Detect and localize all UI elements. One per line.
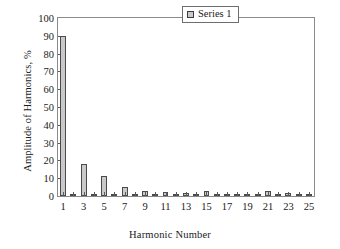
x-axis-tick-mark — [268, 192, 269, 196]
y-axis-tick-label: 40 — [24, 119, 54, 130]
plot-inner: 0102030405060708090100135791113151719212… — [58, 18, 314, 196]
y-axis-tick-label: 90 — [24, 30, 54, 41]
x-axis-tick-label: 17 — [222, 201, 233, 212]
x-axis-tick-mark — [237, 192, 238, 196]
y-axis-tick-label: 0 — [24, 191, 54, 202]
x-axis-tick-label: 11 — [160, 201, 170, 212]
y-axis-tick-label: 100 — [24, 13, 54, 24]
x-axis-tick-mark — [94, 192, 95, 196]
y-axis-tick-label: 10 — [24, 173, 54, 184]
x-axis-tick-label: 19 — [242, 201, 253, 212]
x-axis-tick-label: 9 — [142, 201, 147, 212]
bar — [60, 36, 66, 196]
y-axis-tick-label: 70 — [24, 66, 54, 77]
x-axis-tick-label: 21 — [263, 201, 274, 212]
x-axis-tick-mark — [145, 192, 146, 196]
legend-swatch-icon — [187, 11, 194, 18]
y-axis-tick-label: 60 — [24, 84, 54, 95]
x-axis-tick-mark — [288, 192, 289, 196]
x-axis-tick-mark — [104, 192, 105, 196]
x-axis-tick-mark — [166, 192, 167, 196]
x-axis-tick-mark — [258, 192, 259, 196]
x-axis-tick-mark — [309, 192, 310, 196]
x-axis-tick-mark — [206, 192, 207, 196]
x-axis-tick-label: 5 — [101, 201, 106, 212]
x-axis-tick-label: 3 — [81, 201, 86, 212]
x-axis-tick-label: 13 — [181, 201, 192, 212]
x-axis-tick-label: 1 — [60, 201, 65, 212]
chart-figure: Amplitude of Harmonics, % 01020304050607… — [0, 0, 340, 249]
x-axis-tick-mark — [114, 192, 115, 196]
x-axis-tick-mark — [278, 192, 279, 196]
x-axis-tick-mark — [125, 192, 126, 196]
y-axis-tick-label: 30 — [24, 137, 54, 148]
plot-area: 0102030405060708090100135791113151719212… — [57, 17, 315, 197]
x-axis-tick-mark — [155, 192, 156, 196]
x-axis-tick-mark — [176, 192, 177, 196]
x-axis-tick-mark — [63, 192, 64, 196]
y-axis-tick-label: 50 — [24, 102, 54, 113]
x-axis-tick-mark — [73, 192, 74, 196]
x-axis-tick-label: 23 — [283, 201, 294, 212]
x-axis-tick-mark — [217, 192, 218, 196]
x-axis-tick-label: 7 — [122, 201, 127, 212]
x-axis-tick-mark — [186, 192, 187, 196]
x-axis-tick-label: 25 — [304, 201, 315, 212]
y-axis-tick-label: 20 — [24, 155, 54, 166]
x-axis-tick-mark — [247, 192, 248, 196]
x-axis-tick-label: 15 — [201, 201, 212, 212]
chart-legend: Series 1 — [182, 6, 239, 23]
legend-label: Series 1 — [198, 9, 232, 20]
y-axis-tick-label: 80 — [24, 48, 54, 59]
x-axis-tick-mark — [299, 192, 300, 196]
x-axis-tick-mark — [227, 192, 228, 196]
x-axis-tick-mark — [84, 192, 85, 196]
x-axis-tick-mark — [196, 192, 197, 196]
x-axis-title: Harmonic Number — [0, 229, 340, 240]
x-axis-tick-mark — [135, 192, 136, 196]
